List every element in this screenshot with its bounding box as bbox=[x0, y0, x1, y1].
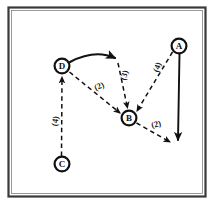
graph-node-d[interactable]: D bbox=[55, 59, 70, 74]
graph-node-b[interactable]: B bbox=[122, 111, 137, 126]
edge-label-upper-right-to-b: (3) bbox=[118, 69, 131, 82]
edge-label-text: (4) bbox=[49, 115, 61, 127]
graph-canvas: (3) (2) (4) (4) (2) A B C D bbox=[0, 0, 216, 212]
node-d-label: D bbox=[59, 61, 66, 71]
graph-figure: (3) (2) (4) (4) (2) A B C D bbox=[0, 0, 216, 212]
edge-d-to-b bbox=[70, 72, 121, 113]
node-a-label: A bbox=[176, 41, 183, 51]
edge-c-to-d bbox=[62, 77, 63, 156]
edge-label-a-to-b: (4) bbox=[151, 60, 164, 73]
edge-label-text: (2) bbox=[92, 79, 105, 92]
graph-node-a[interactable]: A bbox=[172, 39, 187, 54]
node-c-label: C bbox=[59, 159, 66, 169]
edge-label-text: (2) bbox=[150, 118, 162, 130]
edge-label-b-to-lower-right: (2) bbox=[150, 118, 162, 130]
edge-a-to-lower-right bbox=[178, 54, 180, 140]
edge-label-text: (4) bbox=[151, 60, 164, 73]
node-b-label: B bbox=[126, 113, 132, 123]
graph-node-c[interactable]: C bbox=[55, 157, 70, 172]
edge-label-d-to-b: (2) bbox=[92, 79, 105, 92]
edge-label-c-to-d: (4) bbox=[49, 115, 61, 127]
edge-label-text: (3) bbox=[118, 69, 131, 82]
edge-d-to-upper-right bbox=[70, 54, 115, 62]
